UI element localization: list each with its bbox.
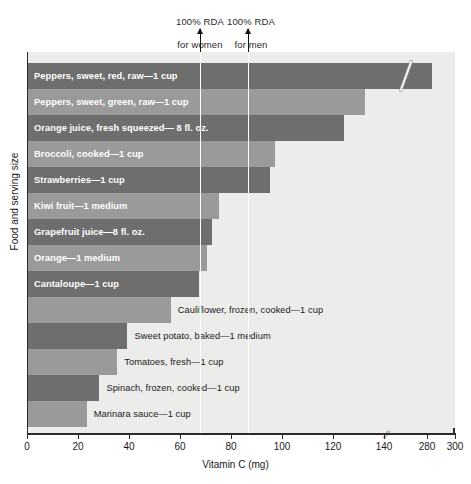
bar: [28, 401, 87, 427]
bar-row: Strawberries—1 cup: [28, 167, 456, 193]
bar-row: Spinach, frozen, cooked—1 cup: [28, 375, 456, 401]
x-tick-label: 0: [24, 441, 30, 452]
rda-men-line1: 100% RDA: [227, 16, 275, 27]
bar-label: Peppers, sweet, green, raw—1 cup: [34, 97, 189, 107]
x-tick: [333, 433, 334, 439]
bar-label: Peppers, sweet, red, raw—1 cup: [34, 71, 178, 81]
x-tick: [129, 433, 130, 439]
bar-label: Cantaloupe—1 cup: [34, 279, 119, 289]
x-tick-label: 40: [123, 441, 134, 452]
x-tick-label: 120: [325, 441, 342, 452]
bar: [28, 323, 127, 349]
bar-row: Cauliflower, frozen, cooked—1 cup: [28, 297, 456, 323]
bar-label: Strawberries—1 cup: [34, 175, 125, 185]
y-axis-label: Food and serving size: [9, 102, 20, 302]
rda-men-note: 100% RDA for men: [212, 4, 290, 50]
bar-label: Marinara sauce—1 cup: [94, 409, 191, 419]
x-axis-line: [27, 433, 455, 435]
bar: [28, 375, 99, 401]
bar-row: Peppers, sweet, green, raw—1 cup: [28, 89, 456, 115]
bar-label: Orange—1 medium: [34, 253, 120, 263]
bar: [28, 297, 171, 323]
x-tick-label: 80: [225, 441, 236, 452]
bar-label: Orange juice, fresh squeezed— 8 fl. oz.: [34, 123, 209, 133]
x-tick: [78, 433, 79, 439]
x-tick-label: 100: [274, 441, 291, 452]
rda-women-reference-line: [200, 52, 201, 433]
x-tick: [27, 433, 28, 439]
chart-plot-area: Peppers, sweet, red, raw—1 cupPeppers, s…: [27, 52, 455, 433]
x-tick-label: 140: [376, 441, 393, 452]
x-tick: [455, 433, 456, 439]
bar-row: Grapefruit juice—8 fl. oz.: [28, 219, 456, 245]
bar-label: Sweet potato, baked—1 medium: [134, 331, 270, 341]
bar-row: Tomatoes, fresh—1 cup: [28, 349, 456, 375]
rda-annotations: 100% RDA for women 100% RDA for men: [0, 0, 471, 52]
bar: [28, 349, 117, 375]
bar-label: Tomatoes, fresh—1 cup: [124, 357, 223, 367]
bar-label: Grapefruit juice—8 fl. oz.: [34, 227, 145, 237]
x-tick-label: 20: [72, 441, 83, 452]
x-axis-label: Vitamin C (mg): [0, 459, 471, 470]
bar-row: Orange juice, fresh squeezed— 8 fl. oz.: [28, 115, 456, 141]
bar-row: Kiwi fruit—1 medium: [28, 193, 456, 219]
rda-men-arrow-icon: [248, 29, 249, 52]
bar-row: Broccoli, cooked—1 cup: [28, 141, 456, 167]
rda-men-reference-line: [248, 52, 249, 433]
x-tick-label: 60: [174, 441, 185, 452]
bar-label: Broccoli, cooked—1 cup: [34, 149, 144, 159]
x-tick: [180, 433, 181, 439]
x-tick-label: 300: [447, 441, 464, 452]
x-tick: [231, 433, 232, 439]
rda-women-arrow-icon: [200, 29, 201, 52]
rda-men-line2: for men: [235, 39, 268, 50]
x-tick: [282, 433, 283, 439]
bar-row: Cantaloupe—1 cup: [28, 271, 456, 297]
x-tick: [427, 433, 428, 439]
bar-label: Spinach, frozen, cooked—1 cup: [106, 383, 239, 393]
bar-row: Peppers, sweet, red, raw—1 cup: [28, 63, 456, 89]
bar-row: Orange—1 medium: [28, 245, 456, 271]
bar-row: Sweet potato, baked—1 medium: [28, 323, 456, 349]
x-tick-label: 280: [419, 441, 436, 452]
plot-top-margin: [28, 52, 455, 62]
bar-row: Marinara sauce—1 cup: [28, 401, 456, 427]
bar-label: Kiwi fruit—1 medium: [34, 201, 127, 211]
